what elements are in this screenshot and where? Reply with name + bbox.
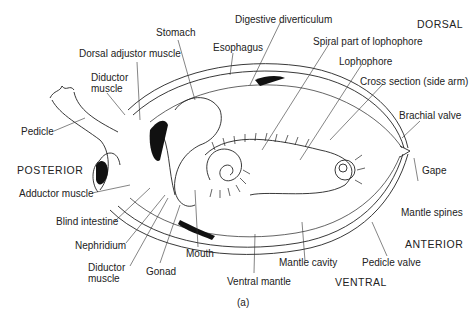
- label-digestive-diverticulum: Digestive diverticulum: [235, 14, 332, 25]
- label-mantle-spines: Mantle spines: [401, 207, 463, 218]
- orientation-dorsal: DORSAL: [417, 18, 463, 30]
- label-esophagus: Esophagus: [213, 42, 263, 53]
- orientation-ventral: VENTRAL: [335, 276, 387, 288]
- label-pedicle: Pedicle: [21, 126, 54, 137]
- label-blind-intestine: Blind intestine: [56, 216, 118, 227]
- label-dorsal-adjustor-muscle: Dorsal adjustor muscle: [79, 48, 181, 59]
- label-gape: Gape: [422, 165, 446, 176]
- label-gonad: Gonad: [146, 266, 176, 277]
- figure-caption: (a): [237, 297, 249, 308]
- label-pedicle-valve: Pedicle valve: [362, 257, 421, 268]
- orientation-posterior: POSTERIOR: [17, 164, 83, 176]
- label-spiral-part-of-lophophore: Spiral part of lophophore: [313, 36, 423, 47]
- label-adductor-muscle: Adductor muscle: [19, 188, 93, 199]
- label-lophophore: Lophophore: [339, 56, 392, 67]
- label-diductor-muscle-bottom-1: Diductor: [88, 262, 125, 273]
- label-diductor-muscle-bottom-2: muscle: [88, 273, 120, 284]
- label-ventral-mantle: Ventral mantle: [227, 276, 291, 287]
- label-cross-section-side-arm: Cross section (side arm): [360, 76, 468, 87]
- label-stomach: Stomach: [156, 27, 195, 38]
- orientation-anterior: ANTERIOR: [405, 238, 463, 250]
- label-nephridium: Nephridium: [75, 240, 126, 251]
- label-diductor-muscle-top-1: Diductor: [91, 72, 128, 83]
- label-mouth: Mouth: [186, 248, 214, 259]
- label-diductor-muscle-top-2: muscle: [91, 83, 123, 94]
- label-mantle-cavity: Mantle cavity: [279, 257, 337, 268]
- label-brachial-valve: Brachial valve: [399, 110, 461, 121]
